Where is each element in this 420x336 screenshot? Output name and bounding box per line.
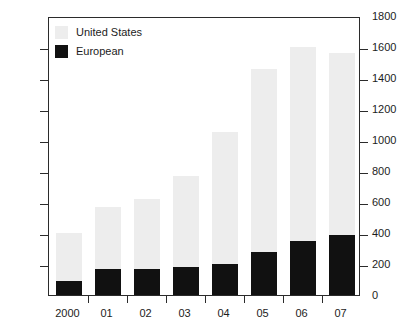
bar-group-04[interactable] [212,132,238,295]
bar-segment-united-states-04[interactable] [212,132,238,264]
y-axis-label-600: 600 [372,197,390,208]
bar-segment-united-states-01[interactable] [95,207,121,269]
bar-segment-united-states-03[interactable] [173,176,199,267]
y-axis-label-800: 800 [372,166,390,177]
bar-segment-european-01[interactable] [95,269,121,295]
y-axis-label-1600: 1600 [372,42,396,53]
bar-segment-united-states-06[interactable] [290,47,316,241]
y-tick-left-1600 [40,49,49,50]
y-axis-label-200: 200 [372,259,390,270]
y-tick-right-200 [359,266,368,267]
y-axis-label-1400: 1400 [372,73,396,84]
bar-segment-european-07[interactable] [329,235,355,295]
bar-segment-european-03[interactable] [173,267,199,295]
legend-label-united-states: United States [76,27,142,38]
x-tick-4 [244,295,245,303]
bar-segment-european-04[interactable] [212,264,238,295]
y-tick-left-1200 [40,111,49,112]
x-tick-3 [205,295,206,303]
bar-segment-european-06[interactable] [290,241,316,295]
bar-group-07[interactable] [329,53,355,295]
y-tick-left-600 [40,204,49,205]
y-tick-right-1200 [359,111,368,112]
bar-segment-european-05[interactable] [251,252,277,295]
y-axis-label-1200: 1200 [372,104,396,115]
bar-segment-united-states-2000[interactable] [56,233,82,281]
y-axis-label-0: 0 [372,290,378,301]
y-tick-right-800 [359,173,368,174]
bar-segment-united-states-07[interactable] [329,53,355,234]
x-axis-label-07: 07 [316,308,366,319]
chart-legend: United States European [55,24,142,62]
y-tick-left-200 [40,266,49,267]
x-tick-6 [322,295,323,303]
bar-segment-european-2000[interactable] [56,281,82,295]
bar-group-05[interactable] [251,69,277,295]
stacked-bar-chart: 020040060080010001200140016001800 200001… [0,0,420,336]
bar-group-06[interactable] [290,47,316,295]
legend-swatch-icon-european [55,45,68,58]
y-tick-left-1000 [40,142,49,143]
y-tick-right-1600 [359,49,368,50]
y-tick-right-400 [359,235,368,236]
y-tick-left-400 [40,235,49,236]
bar-segment-united-states-02[interactable] [134,199,160,270]
legend-item-united-states: United States [55,24,142,40]
x-tick-1 [127,295,128,303]
y-tick-right-1400 [359,80,368,81]
bar-group-2000[interactable] [56,233,82,295]
legend-label-european: European [76,46,124,57]
bar-segment-united-states-05[interactable] [251,69,277,252]
y-tick-right-1000 [359,142,368,143]
y-tick-right-600 [359,204,368,205]
bar-group-01[interactable] [95,207,121,295]
x-tick-5 [283,295,284,303]
bar-group-02[interactable] [134,199,160,295]
x-tick-2 [166,295,167,303]
legend-item-european: European [55,43,142,59]
y-tick-left-1400 [40,80,49,81]
legend-swatch-icon-united-states [55,26,68,39]
bar-segment-european-02[interactable] [134,269,160,295]
y-axis-label-1000: 1000 [372,135,396,146]
bar-group-03[interactable] [173,176,199,295]
y-axis-label-400: 400 [372,228,390,239]
x-tick-0 [88,295,89,303]
y-tick-left-800 [40,173,49,174]
y-axis-label-1800: 1800 [372,11,396,22]
